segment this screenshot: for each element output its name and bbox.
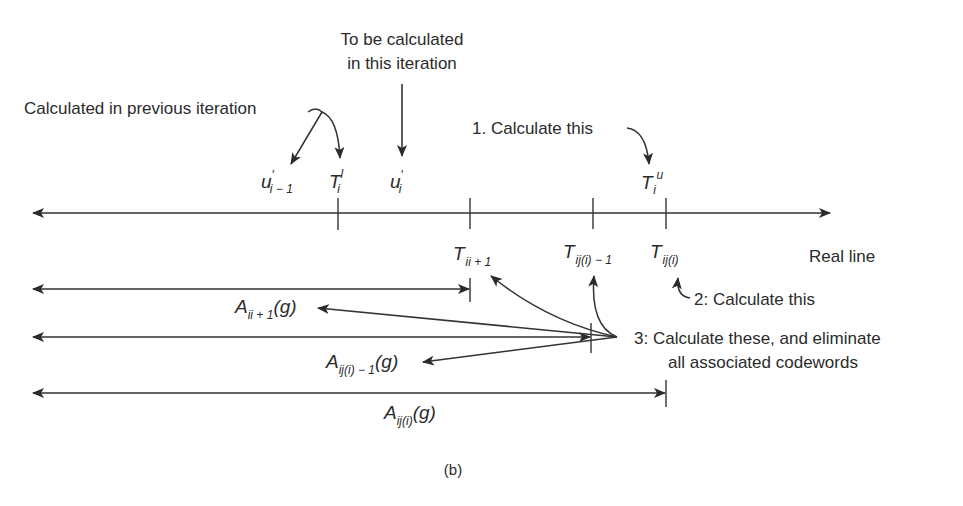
svg-text:Tii + 1: Tii + 1 [453,243,491,269]
fan-arrow-to-a-iji1 [423,337,617,362]
fan-arrow-to-t-iji1 [593,276,617,337]
previous-iteration-arrow-u [291,109,322,164]
this-iteration-label-line1: To be calculated [341,30,464,49]
fan-arrow-to-a-ii1 [318,308,617,337]
step1-label: 1. Calculate this [472,119,593,138]
symbol-t-upper: Tui [641,168,664,197]
symbol-t-ii1: Tii + 1 [453,243,491,269]
svg-text:Tij(i) − 1: Tij(i) − 1 [563,241,612,267]
symbol-t-iji1: Tij(i) − 1 [563,241,612,267]
svg-text:Tui: Tui [641,168,664,197]
label-a-ii1: Aii + 1(g) [234,296,297,322]
real-line-label: Real line [809,247,875,266]
step1-arrow [627,128,649,164]
symbol-u-curr: u′i [390,168,404,196]
svg-text:u′i − 1: u′i − 1 [261,168,293,196]
symbol-t-lower: Tli [329,167,344,196]
svg-text:Tli: Tli [329,167,344,196]
previous-iteration-arrow-t [322,112,340,158]
this-iteration-label-line2: in this iteration [347,54,457,73]
real-line-diagram: To be calculated in this iteration Calcu… [0,0,963,506]
symbol-u-prev: u′i − 1 [261,168,293,196]
step3-label-line1: 3: Calculate these, and eliminate [634,329,881,348]
label-a-iji1: Aij(i) − 1(g) [325,351,398,377]
fan-arrow-to-t-ii1 [491,276,617,337]
previous-iteration-label: Calculated in previous iteration [24,99,256,118]
label-a-iji: Aij(i)(g) [383,402,436,428]
svg-text:Aij(i) − 1(g): Aij(i) − 1(g) [325,351,398,377]
figure-caption: (b) [444,461,462,478]
step2-arrow [678,278,690,298]
symbol-t-iji: Tij(i) [650,241,679,267]
step3-label-line2: all associated codewords [668,353,858,372]
svg-text:Aii + 1(g): Aii + 1(g) [234,296,297,322]
svg-text:Tij(i): Tij(i) [650,241,679,267]
svg-text:u′i: u′i [390,168,404,196]
svg-text:Aij(i)(g): Aij(i)(g) [383,402,436,428]
step2-label: 2: Calculate this [694,290,815,309]
